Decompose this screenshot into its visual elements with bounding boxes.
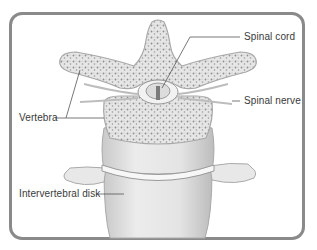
lower-vertebra [104,172,212,238]
label-intervertebral-disk: Intervertebral disk [19,189,100,199]
label-vertebra: Vertebra [19,113,58,123]
vertebral-arch [60,20,257,89]
leader-vertebra-arch [55,70,80,118]
transverse-process-left [64,167,106,185]
label-spinal-cord: Spinal cord [244,32,295,42]
transverse-process-right [210,163,256,182]
spinal-cord-center [156,86,160,100]
label-spinal-nerve: Spinal nerve [244,96,301,106]
